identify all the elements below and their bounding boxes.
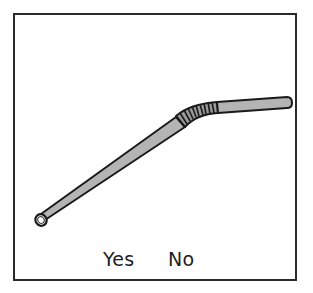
straw-short-segment	[217, 97, 292, 113]
straw-long-segment	[39, 117, 185, 224]
option-yes[interactable]: Yes	[103, 247, 134, 271]
straw-bend-corrugation	[176, 102, 218, 127]
option-no[interactable]: No	[168, 247, 194, 271]
answer-options: Yes No	[0, 247, 313, 277]
